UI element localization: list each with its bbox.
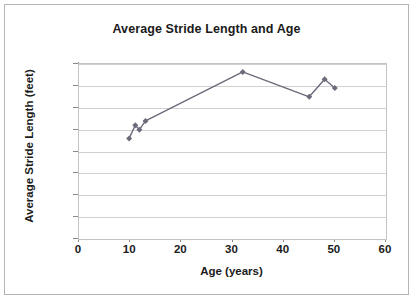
series-markers <box>126 69 338 142</box>
x-tick-label: 50 <box>314 243 354 255</box>
chart-title: Average Stride Length and Age <box>0 22 413 36</box>
series-line <box>129 72 335 139</box>
x-axis-title: Age (years) <box>78 265 385 277</box>
x-tick-label: 30 <box>212 243 252 255</box>
data-point-marker <box>240 69 246 75</box>
x-tick-label: 40 <box>263 243 303 255</box>
y-axis-title: Average Stride Length (feet) <box>23 51 35 241</box>
chart-page: Average Stride Length and Age Average St… <box>0 0 413 299</box>
x-tick-label: 0 <box>58 243 98 255</box>
x-tick-label: 10 <box>109 243 149 255</box>
data-series-layer <box>79 64 386 239</box>
data-point-marker <box>126 135 132 141</box>
plot-area <box>78 63 387 240</box>
x-tick-label: 60 <box>365 243 405 255</box>
x-tick-label: 20 <box>160 243 200 255</box>
